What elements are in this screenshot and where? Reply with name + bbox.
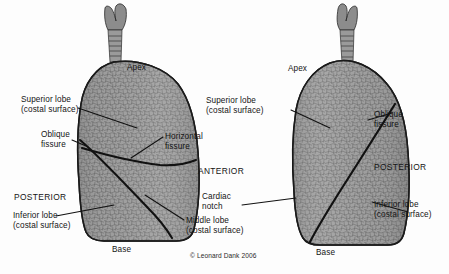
- larynx-left: [105, 4, 127, 30]
- label-apex-right: Apex: [288, 64, 307, 74]
- label-inferior-lobe-right: Inferior lobe(costal surface): [374, 200, 432, 219]
- copyright-notice: © Leonard Dank 2006: [190, 251, 257, 261]
- label-posterior-right: POSTERIOR: [374, 163, 426, 173]
- label-posterior-left: POSTERIOR: [14, 193, 66, 203]
- label-superior-lobe-left: Superior lobe(costal surface): [21, 95, 79, 114]
- label-anterior: ANTERIOR: [198, 167, 244, 177]
- label-oblique-fissure-left: Obliquefissure: [41, 130, 70, 149]
- label-oblique-fissure-right: Obliquefissure: [374, 110, 403, 129]
- label-superior-lobe-right: Superior lobe(costal surface): [206, 96, 264, 115]
- label-inferior-lobe-left: Inferior lobe(costal surface): [13, 211, 71, 230]
- label-cardiac-notch: Cardiacnotch: [202, 192, 231, 211]
- label-base-right: Base: [316, 248, 335, 258]
- label-base-left: Base: [112, 245, 131, 255]
- label-apex-left: Apex: [127, 63, 146, 73]
- trachea-left: [108, 30, 122, 62]
- label-middle-lobe-left: Middle lobe(costal surface): [186, 216, 244, 235]
- trachea-right: [340, 30, 354, 63]
- lung-anatomy-figure: Superior lobe(costal surface) Obliquefis…: [0, 0, 449, 274]
- label-horizontal-fissure-left: Horizontalfissure: [165, 132, 203, 151]
